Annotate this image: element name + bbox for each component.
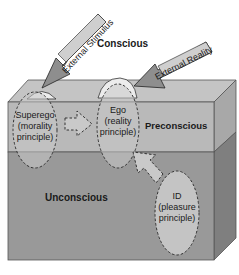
- id-line2: (pleasure: [158, 202, 196, 212]
- superego-line3: principle): [17, 132, 54, 142]
- ego-name: Ego: [110, 105, 126, 115]
- conscious-label: Conscious: [97, 38, 149, 49]
- superego-name: Superego: [15, 110, 54, 120]
- superego-line2: (morality: [18, 121, 53, 131]
- id-line3: principle): [159, 213, 196, 223]
- unconscious-label: Unconscious: [45, 192, 108, 203]
- preconscious-label: Preconscious: [145, 120, 207, 131]
- ego-oval: [97, 84, 139, 168]
- ego-line2: (reality: [104, 116, 132, 126]
- id-name: ID: [173, 191, 183, 201]
- box-side-face-lower: [214, 132, 236, 260]
- external-stimulus-arrow: External Stimulus: [42, 14, 116, 88]
- freud-mind-diagram: External Stimulus External Reality Consc…: [0, 0, 239, 275]
- external-reality-label: External Reality: [153, 44, 214, 82]
- ego-line3: principle): [100, 127, 137, 137]
